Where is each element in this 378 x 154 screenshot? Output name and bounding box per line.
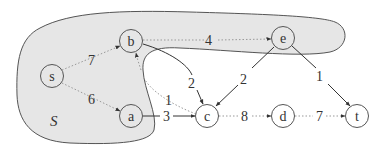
node-label-e: e [280,31,286,46]
edge-label-b-c: 2 [188,76,195,91]
node-a: a [120,105,143,128]
edge-label-b-e: 4 [205,33,212,48]
edge-label-c-d: 8 [241,109,248,124]
edge-label-s-a: 6 [88,92,95,107]
region-s [17,11,345,143]
edge-label-a-c: 3 [163,109,170,124]
edge-b-c-2 [197,90,203,104]
edge-e-c-2 [216,85,238,106]
node-t: t [346,105,369,128]
node-e: e [272,27,295,50]
region-label-s: S [50,113,58,129]
edge-label-d-t: 7 [316,109,323,124]
node-label-s: s [49,69,54,84]
node-label-d: d [280,109,287,124]
edge-label-c-b: 1 [165,93,172,108]
edge-label-e-t: 1 [316,69,323,84]
node-label-a: a [128,109,135,124]
node-label-t: t [355,109,359,124]
edge-label-e-c: 2 [240,72,247,87]
edge-e-t-2 [328,84,350,106]
node-b: b [120,30,143,53]
node-d: d [272,105,295,128]
node-label-c: c [204,109,210,124]
graph-diagram: S 7 6 4 2 1 2 1 3 8 7 s b e [0,0,378,154]
node-c: c [196,105,219,128]
edge-label-s-b: 7 [88,53,95,68]
node-label-b: b [128,34,135,49]
node-s: s [41,65,64,88]
